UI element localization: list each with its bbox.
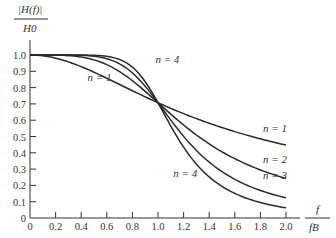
y-tick-label: 0 bbox=[21, 213, 26, 224]
curve-label: n = 3 bbox=[263, 169, 287, 181]
y-tick-label: 0.2 bbox=[13, 180, 26, 191]
curve-label: n = 1 bbox=[263, 122, 287, 134]
x-tick-label: 0.8 bbox=[126, 221, 139, 232]
x-tick-label: 0 bbox=[27, 221, 32, 232]
x-axis-label: f fB bbox=[305, 203, 330, 233]
y-label-denominator: H0 bbox=[22, 22, 37, 34]
x-tick-label: 1.8 bbox=[254, 221, 267, 232]
y-tick-label: 0.8 bbox=[13, 83, 26, 94]
y-tick-label: 0.3 bbox=[13, 164, 26, 175]
curve-label: n = 2 bbox=[263, 153, 287, 165]
y-tick-label: 0.6 bbox=[13, 115, 26, 126]
curve-label: n = 4 bbox=[155, 53, 179, 65]
x-tick-label: 0.4 bbox=[75, 221, 89, 232]
y-label-numerator: |H(f)| bbox=[18, 3, 42, 16]
curve-label: n = 1 bbox=[88, 71, 112, 83]
curve-label: n = 4 bbox=[173, 167, 197, 179]
curve-n2 bbox=[30, 55, 286, 178]
y-axis-label: |H(f)| H0 bbox=[14, 3, 48, 34]
y-tick-label: 0.7 bbox=[13, 99, 26, 110]
curves bbox=[30, 55, 286, 208]
y-tick-label: 0.5 bbox=[13, 132, 26, 143]
x-tick-label: 0.6 bbox=[100, 221, 113, 232]
x-label-numerator: f bbox=[316, 203, 321, 215]
y-tick-label: 0.1 bbox=[13, 197, 26, 208]
curve-n3 bbox=[30, 55, 286, 198]
y-ticks: 00.10.20.30.40.50.60.70.80.91.0 bbox=[13, 50, 36, 224]
x-ticks: 00.20.40.60.81.01.21.41.61.82.0 bbox=[27, 212, 292, 232]
x-tick-label: 0.2 bbox=[49, 221, 62, 232]
x-tick-label: 1.4 bbox=[203, 221, 217, 232]
butterworth-response-chart: |H(f)| H0 f fB 00.10.20.30.40.50.60.70.8… bbox=[0, 0, 336, 238]
curve-labels: n = 4n = 1n = 1n = 2n = 3n = 4 bbox=[88, 53, 288, 181]
y-tick-label: 1.0 bbox=[13, 50, 26, 61]
x-label-denominator: fB bbox=[309, 221, 319, 233]
curve-n1 bbox=[30, 55, 286, 145]
y-tick-label: 0.9 bbox=[13, 66, 26, 77]
x-tick-label: 1.6 bbox=[228, 221, 241, 232]
y-tick-label: 0.4 bbox=[13, 148, 27, 159]
x-tick-label: 1.2 bbox=[177, 221, 190, 232]
x-tick-label: 1.0 bbox=[151, 221, 164, 232]
x-tick-label: 2.0 bbox=[279, 221, 292, 232]
